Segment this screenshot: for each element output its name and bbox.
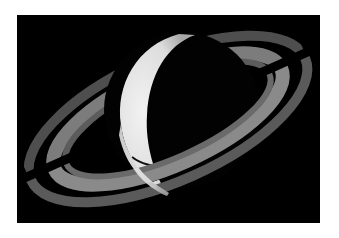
saturn-illustration: [17, 15, 320, 223]
saturn-photo: [17, 15, 320, 223]
